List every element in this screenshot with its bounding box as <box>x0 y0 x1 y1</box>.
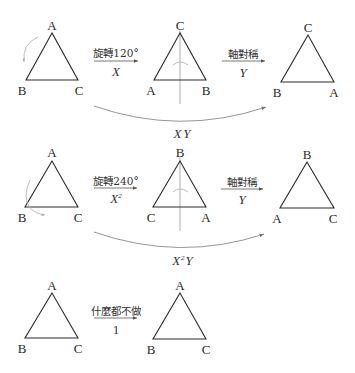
row2-middle-triangle <box>153 161 206 207</box>
row1-end-triangle <box>281 35 334 82</box>
diagram-graphics <box>0 0 355 373</box>
row3-end-vertex-top: A <box>175 279 184 292</box>
row2-rotation-hint-icon <box>26 180 45 215</box>
row2-step2-symbol: Y <box>238 193 245 206</box>
row1-step1-symbol: X <box>112 65 120 78</box>
row1-end-vertex-right: A <box>329 86 338 99</box>
row2-middle-vertex-left: C <box>147 211 156 224</box>
row1-start-vertex-left: B <box>18 84 27 97</box>
row3-end-triangle <box>153 293 206 339</box>
row1-middle-vertex-right: B <box>202 84 211 97</box>
row1-step2-label: 軸對稱 <box>228 49 258 60</box>
row2-end-vertex-top: B <box>303 148 312 161</box>
row2-step2-label: 軸對稱 <box>227 177 257 188</box>
row3-step1-label: 什麼都不做 <box>91 306 141 317</box>
row2-step1-label: 旋轉240° <box>93 176 138 187</box>
row1-flip-hint-icon <box>173 62 188 65</box>
row2-start-vertex-left: B <box>18 211 27 224</box>
row2-step1-symbol: X2 <box>110 192 121 205</box>
row1-middle-vertex-top: C <box>176 19 185 32</box>
row1-start-vertex-right: C <box>75 84 84 97</box>
row2-middle-vertex-right: A <box>201 211 210 224</box>
row3-end-vertex-left: B <box>147 343 156 356</box>
row1-end-vertex-left: B <box>273 86 282 99</box>
symmetry-diagram: A B C 旋轉120° X C A B 軸對稱 Y C B A XY A B … <box>0 0 355 373</box>
row2-end-vertex-right: C <box>329 212 338 225</box>
row2-end-vertex-left: A <box>272 212 281 225</box>
row3-end-vertex-right: C <box>202 343 211 356</box>
row3-step1-symbol: 1 <box>113 323 120 336</box>
row1-rotation-hint-icon <box>24 37 38 62</box>
row1-middle-vertex-left: A <box>146 84 155 97</box>
row3-start-vertex-top: A <box>47 279 56 292</box>
row3-start-vertex-right: C <box>74 342 83 355</box>
row2-start-vertex-top: A <box>47 146 56 159</box>
row1-composite-symbol: XY <box>173 127 192 140</box>
row1-composite-arrow-icon <box>94 106 266 121</box>
row2-start-vertex-right: C <box>74 211 83 224</box>
row1-start-triangle <box>26 33 78 80</box>
row2-start-triangle <box>25 161 78 207</box>
row2-flip-hint-icon <box>173 189 188 192</box>
row1-step1-label: 旋轉120° <box>93 48 138 59</box>
row1-end-vertex-top: C <box>304 21 313 34</box>
row2-middle-vertex-top: B <box>176 146 185 159</box>
row1-step2-symbol: Y <box>239 66 246 79</box>
row1-start-vertex-top: A <box>47 19 56 32</box>
row3-start-vertex-left: B <box>18 342 27 355</box>
row2-end-triangle <box>280 162 334 208</box>
row2-composite-symbol: X2Y <box>172 254 194 267</box>
row2-composite-arrow-icon <box>94 232 264 248</box>
row3-start-triangle <box>25 293 78 338</box>
